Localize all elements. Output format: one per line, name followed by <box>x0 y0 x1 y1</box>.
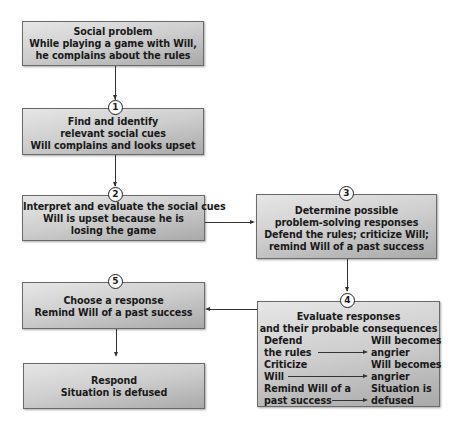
response-text: the rules <box>264 347 364 359</box>
response-text: past success <box>264 395 364 407</box>
arrow-right-icon <box>363 374 368 378</box>
node-title: Find and identify <box>23 116 203 128</box>
consequence-text: Will becomes <box>371 335 441 347</box>
connector-line <box>210 309 257 310</box>
response-text: Defend <box>264 335 364 347</box>
consequence-text: defused <box>371 395 441 407</box>
response-pair: Criticize Will Will becomes angrier <box>258 359 439 383</box>
connector-line <box>288 376 363 377</box>
arrow-left-icon <box>205 307 210 311</box>
node-text: he complains about the rules <box>23 50 203 62</box>
connector-line <box>205 222 250 223</box>
node-text: remind Will of a past success <box>257 241 436 253</box>
node-title: problem-solving responses <box>257 217 436 229</box>
node-title: Social problem <box>23 26 203 38</box>
node-text: While playing a game with Will, <box>23 38 203 50</box>
node-text: Will complains and looks upset <box>23 140 203 152</box>
node-respond: Respond Situation is defused <box>23 363 205 409</box>
response-pair: Defend the rules Will becomes angrier <box>258 335 439 359</box>
node-title: Interpret and evaluate the social cues <box>23 201 204 213</box>
consequence-text: Will becomes <box>371 359 441 371</box>
step-badge-2: 2 <box>108 187 123 202</box>
node-evaluate-responses: Evaluate responses and their probable co… <box>257 301 440 407</box>
node-text: Defend the rules; criticize Will; <box>257 229 436 241</box>
node-identify-cues: Find and identify relevant social cues W… <box>22 108 204 155</box>
node-text: Will is upset because he is <box>23 213 204 225</box>
consequence-text: angrier <box>371 347 441 359</box>
node-title: and their probable consequences <box>258 323 439 335</box>
step-badge-1: 1 <box>108 100 123 115</box>
node-title: Choose a response <box>23 295 204 307</box>
step-badge-5: 5 <box>108 274 123 289</box>
consequence-text: Situation is <box>371 383 441 395</box>
arrow-down-icon <box>345 287 349 292</box>
connector-line <box>318 352 363 353</box>
node-text: Situation is defused <box>24 387 204 399</box>
step-badge-3: 3 <box>339 186 354 201</box>
response-pair: Remind Will of a past success Situation … <box>258 383 439 407</box>
arrow-right-icon <box>363 350 368 354</box>
node-title: Determine possible <box>257 205 436 217</box>
arrow-down-icon <box>114 352 118 357</box>
connector-line <box>332 400 363 401</box>
node-choose-response: Choose a response Remind Will of a past … <box>22 282 205 329</box>
node-title: relevant social cues <box>23 128 203 140</box>
response-text: Criticize <box>264 359 364 371</box>
node-text: Remind Will of a past success <box>23 307 204 319</box>
arrow-right-icon <box>363 398 368 402</box>
arrow-right-icon <box>250 220 255 224</box>
node-social-problem: Social problem While playing a game with… <box>22 21 204 66</box>
node-title: Respond <box>24 375 204 387</box>
response-text: Remind Will of a <box>264 383 364 395</box>
node-title: Evaluate responses <box>258 311 439 323</box>
consequence-text: angrier <box>371 371 441 383</box>
node-determine-responses: Determine possible problem-solving respo… <box>256 194 437 259</box>
response-consequence-table: Defend the rules Will becomes angrier Cr… <box>258 335 439 407</box>
response-text: Will <box>264 371 364 383</box>
node-text: losing the game <box>23 225 204 237</box>
step-badge-4: 4 <box>340 293 355 308</box>
